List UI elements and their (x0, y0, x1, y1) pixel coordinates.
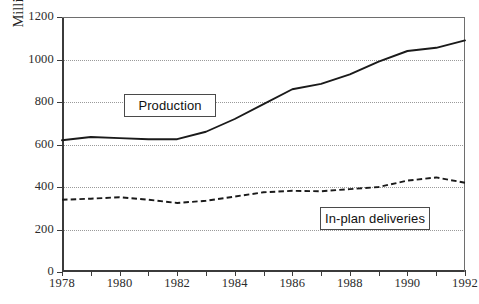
y-axis-tick-label: 200 (35, 222, 54, 237)
annotation-in-plan-deliveries-label: In-plan deliveries (325, 211, 425, 226)
x-axis-tick-label: 1990 (395, 276, 421, 291)
figure-caption-fragment (8, 292, 258, 303)
figure-container: Million Metric Tons 02004006008001000120… (0, 0, 479, 304)
annotation-production: Production (124, 94, 216, 117)
y-axis-tick-label: 600 (35, 137, 54, 152)
x-axis-tick-label: 1992 (452, 276, 478, 291)
plot-area (62, 17, 465, 272)
y-axis-title: Million Metric Tons (10, 0, 27, 74)
x-axis-tick-label: 1986 (279, 276, 305, 291)
data-series-layer (62, 17, 465, 272)
series-line-production (62, 40, 465, 140)
y-axis-tick-label: 800 (35, 94, 54, 109)
x-axis-tick-label: 1984 (222, 276, 248, 291)
x-axis-tick-label: 1978 (49, 276, 75, 291)
y-axis-tick-label: 1200 (28, 9, 54, 24)
x-axis-tick-label: 1980 (107, 276, 133, 291)
x-axis-tick-label: 1982 (164, 276, 190, 291)
x-axis-tick-label: 1988 (337, 276, 363, 291)
annotation-production-label: Production (138, 98, 201, 113)
y-axis-tick-label: 400 (35, 179, 54, 194)
series-line-in-plan-deliveries (62, 177, 465, 203)
y-axis-tick-label: 1000 (28, 52, 54, 67)
annotation-in-plan-deliveries: In-plan deliveries (320, 207, 430, 230)
